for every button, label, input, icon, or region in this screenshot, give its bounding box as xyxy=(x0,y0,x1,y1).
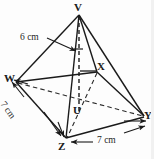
dimension-label-base-front: 7 cm xyxy=(97,136,116,146)
vertex-label-U: U xyxy=(73,105,81,116)
pyramid-diagram: V W X Y Z U 6 cm 7 cm 7 cm xyxy=(0,0,154,159)
right-edge-strip xyxy=(151,0,154,159)
vertex-label-Z: Z xyxy=(58,141,65,152)
dimension-label-height: 6 cm xyxy=(20,33,39,43)
vertex-label-W: W xyxy=(4,73,15,84)
height-leader-line xyxy=(47,38,83,51)
pyramid-drawing xyxy=(0,0,154,159)
vertex-label-X: X xyxy=(97,61,105,72)
vertex-label-V: V xyxy=(74,2,82,13)
dimension-line-base-left xyxy=(12,82,61,136)
